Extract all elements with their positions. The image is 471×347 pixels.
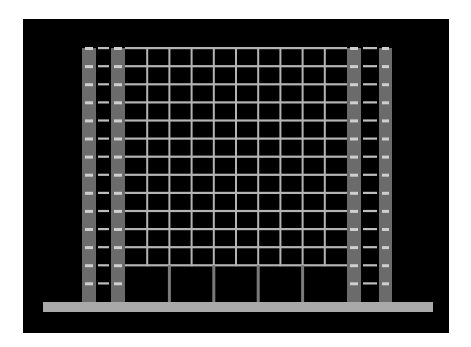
column-highlight bbox=[350, 119, 358, 122]
column-highlight bbox=[114, 174, 122, 177]
balcony-rail bbox=[363, 119, 377, 121]
balcony-rail bbox=[363, 138, 377, 140]
column-highlight bbox=[350, 264, 358, 267]
floor-line bbox=[125, 156, 347, 158]
floor-line bbox=[125, 83, 347, 85]
ground-floor-post bbox=[212, 265, 215, 302]
balcony-rail bbox=[363, 264, 377, 266]
column-highlight bbox=[350, 65, 358, 68]
column-highlight bbox=[114, 246, 122, 249]
column-highlight bbox=[382, 246, 389, 249]
column-highlight bbox=[350, 156, 358, 159]
column-highlight bbox=[85, 174, 93, 177]
balcony-rail bbox=[98, 210, 109, 212]
balcony-rail bbox=[363, 282, 377, 284]
column-highlight bbox=[85, 138, 93, 141]
column-highlight bbox=[114, 83, 122, 86]
column-highlight bbox=[85, 156, 93, 159]
column-highlight bbox=[382, 119, 389, 122]
balcony-rail bbox=[98, 47, 109, 49]
column-highlight bbox=[350, 47, 358, 50]
column-highlight bbox=[382, 192, 389, 195]
column-highlight bbox=[382, 174, 389, 177]
column-highlight bbox=[382, 282, 389, 285]
column-highlight bbox=[114, 101, 122, 104]
column-highlight bbox=[114, 228, 122, 231]
column-highlight bbox=[85, 65, 93, 68]
balcony-rail bbox=[98, 264, 109, 266]
column-highlight bbox=[350, 246, 358, 249]
balcony-rail bbox=[363, 228, 377, 230]
column-highlight bbox=[114, 119, 122, 122]
balcony-rail bbox=[98, 192, 109, 194]
floor-line bbox=[125, 246, 347, 248]
ground-floor-post bbox=[257, 265, 260, 302]
balcony-rail bbox=[363, 47, 377, 49]
floor-line bbox=[125, 192, 347, 194]
column-highlight bbox=[114, 65, 122, 68]
column-highlight bbox=[85, 246, 93, 249]
column-highlight bbox=[85, 83, 93, 86]
column-highlight bbox=[382, 47, 389, 50]
column-highlight bbox=[85, 47, 93, 50]
balcony-rail bbox=[98, 174, 109, 176]
balcony-rail bbox=[98, 282, 109, 284]
column-highlight bbox=[382, 210, 389, 213]
column-highlight bbox=[85, 192, 93, 195]
column-highlight bbox=[114, 47, 122, 50]
column-highlight bbox=[382, 264, 389, 267]
balcony-rail bbox=[98, 101, 109, 103]
column-highlight bbox=[114, 264, 122, 267]
balcony-rail bbox=[98, 246, 109, 248]
column-highlight bbox=[350, 101, 358, 104]
column-highlight bbox=[85, 264, 93, 267]
ground-floor-post bbox=[301, 265, 304, 302]
column-highlight bbox=[382, 138, 389, 141]
floor-line bbox=[125, 174, 347, 176]
column-highlight bbox=[382, 101, 389, 104]
floor-line bbox=[125, 65, 347, 67]
column-highlight bbox=[350, 282, 358, 285]
column-highlight bbox=[350, 174, 358, 177]
balcony-rail bbox=[98, 138, 109, 140]
column-highlight bbox=[85, 210, 93, 213]
floor-line bbox=[125, 264, 347, 266]
column-highlight bbox=[114, 282, 122, 285]
floor-line bbox=[125, 138, 347, 140]
floor-line bbox=[125, 119, 347, 121]
ground-slab bbox=[43, 302, 433, 312]
balcony-rail bbox=[363, 101, 377, 103]
balcony-rail bbox=[98, 228, 109, 230]
column-highlight bbox=[382, 156, 389, 159]
balcony-rail bbox=[98, 119, 109, 121]
column-highlight bbox=[350, 138, 358, 141]
balcony-rail bbox=[363, 156, 377, 158]
balcony-rail bbox=[363, 65, 377, 67]
column-highlight bbox=[85, 282, 93, 285]
column-highlight bbox=[114, 210, 122, 213]
column-highlight bbox=[85, 228, 93, 231]
floor-line bbox=[125, 228, 347, 230]
floor-line bbox=[125, 101, 347, 103]
column-highlight bbox=[85, 119, 93, 122]
balcony-rail bbox=[363, 246, 377, 248]
balcony-rail bbox=[363, 174, 377, 176]
balcony-rail bbox=[98, 83, 109, 85]
column-highlight bbox=[350, 192, 358, 195]
balcony-rail bbox=[363, 83, 377, 85]
column-highlight bbox=[350, 83, 358, 86]
column-highlight bbox=[382, 228, 389, 231]
floor-line bbox=[125, 47, 347, 49]
column-highlight bbox=[382, 83, 389, 86]
floor-line bbox=[125, 210, 347, 212]
building-elevation bbox=[0, 0, 471, 347]
column-highlight bbox=[350, 210, 358, 213]
column-highlight bbox=[382, 65, 389, 68]
column-highlight bbox=[114, 138, 122, 141]
balcony-rail bbox=[363, 210, 377, 212]
column-highlight bbox=[114, 192, 122, 195]
ground-floor-post bbox=[168, 265, 171, 302]
balcony-rail bbox=[98, 65, 109, 67]
column-highlight bbox=[350, 228, 358, 231]
column-highlight bbox=[85, 101, 93, 104]
